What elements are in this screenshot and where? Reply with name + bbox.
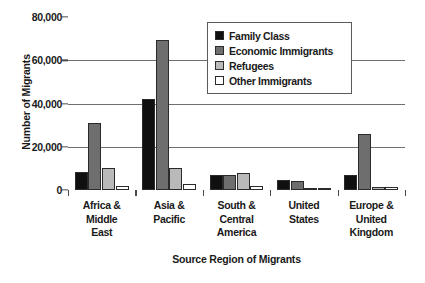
bar [223, 175, 236, 190]
x-tick-mark [68, 190, 69, 196]
bar [372, 187, 385, 190]
bar [88, 123, 101, 190]
x-tick-mark [338, 190, 339, 196]
x-tick-mark [135, 190, 136, 196]
legend-label: Other Immigrants [229, 75, 312, 87]
legend-swatch-icon [215, 31, 224, 40]
bar [277, 180, 290, 190]
bar [318, 188, 331, 190]
legend-swatch-icon [215, 46, 224, 55]
bar [142, 99, 155, 190]
x-category-label-line: Kingdom [328, 226, 414, 240]
legend-item: Other Immigrants [215, 73, 344, 88]
y-tick-label: 80,000 [4, 11, 62, 23]
bar [304, 188, 317, 190]
bar [183, 184, 196, 190]
y-tick-label: 20,000 [4, 141, 62, 153]
bar [344, 175, 357, 190]
bar [358, 134, 371, 190]
x-category-label-line: Europe & [328, 199, 414, 213]
y-tick-label: 40,000 [4, 98, 62, 110]
legend-label: Economic Immigrants [229, 45, 333, 57]
bar [75, 172, 88, 190]
x-axis-title: Source Region of Migrants [68, 253, 405, 265]
bar-group [68, 17, 135, 190]
y-tick-label: 0 [4, 184, 62, 196]
legend-item: Family Class [215, 28, 344, 43]
x-tick-mark [405, 190, 406, 196]
legend-item: Economic Immigrants [215, 43, 344, 58]
bar [291, 181, 304, 190]
bar [156, 40, 169, 190]
bar [169, 168, 182, 190]
x-tick-mark [203, 190, 204, 196]
legend-swatch-icon [215, 76, 224, 85]
legend: Family ClassEconomic ImmigrantsRefugeesO… [207, 22, 352, 94]
y-tick-label: 60,000 [4, 54, 62, 66]
bar [250, 186, 263, 190]
legend-swatch-icon [215, 61, 224, 70]
bar [210, 175, 223, 190]
legend-label: Refugees [229, 60, 274, 72]
x-category-label-line: East [59, 226, 145, 240]
x-tick-mark [270, 190, 271, 196]
bar [116, 186, 129, 190]
legend-label: Family Class [229, 30, 290, 42]
x-category-label-line: United [328, 213, 414, 227]
bar-chart: Number of Migrants 020,00040,00060,00080… [0, 0, 425, 283]
x-category-label: Europe &UnitedKingdom [328, 199, 414, 240]
legend-item: Refugees [215, 58, 344, 73]
x-category-label-line: America [194, 226, 280, 240]
bar [237, 173, 250, 190]
bar [102, 168, 115, 190]
bar [385, 187, 398, 190]
bar-group [135, 17, 202, 190]
